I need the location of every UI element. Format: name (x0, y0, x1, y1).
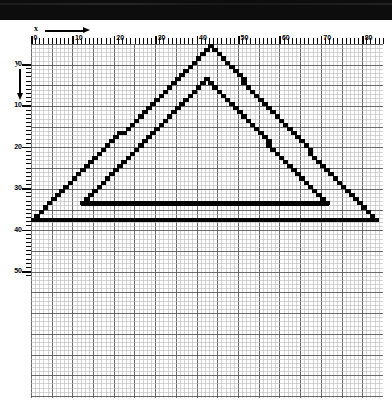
x-tick-label-60: 60 (282, 34, 290, 42)
x-tick-label-80: 80 (365, 34, 373, 42)
x-tick-major-10 (72, 36, 74, 44)
x-axis-ruler: 01020304050607080 (31, 36, 383, 44)
y-tick-major-40 (22, 230, 31, 232)
x-axis-label: x (34, 24, 38, 33)
y-tick-major-30 (22, 188, 31, 190)
x-tick-minor (383, 38, 384, 44)
x-tick-label-50: 50 (241, 34, 249, 42)
x-tick-major-50 (238, 36, 240, 44)
x-arrow-shaft-icon (45, 30, 85, 32)
y-tick-label-50: 50 (14, 267, 22, 275)
x-tick-label-30: 30 (158, 34, 166, 42)
x-tick-major-80 (362, 36, 364, 44)
x-tick-major-40 (197, 36, 199, 44)
x-tick-label-0: 0 (34, 34, 38, 42)
x-tick-major-20 (114, 36, 116, 44)
y-tick-major-50 (22, 271, 31, 273)
y-tick-major-0 (22, 64, 31, 66)
y-tick-label-10: 10 (14, 101, 22, 109)
y-tick-major-10 (22, 105, 31, 107)
y-tick-major-20 (22, 147, 31, 149)
x-tick-label-70: 70 (323, 34, 331, 42)
x-tick-major-60 (279, 36, 281, 44)
plot-svg (31, 44, 383, 398)
x-tick-label-40: 40 (199, 34, 207, 42)
y-axis-ruler: 01020304050 (22, 44, 31, 404)
y-arrow-shaft-icon (19, 69, 21, 95)
x-tick-major-0 (31, 36, 33, 44)
y-tick-label-40: 40 (14, 226, 22, 234)
x-tick-label-20: 20 (116, 34, 124, 42)
y-tick-label-0: 0 (18, 60, 22, 68)
y-tick-label-20: 20 (14, 143, 22, 151)
y-tick-label-30: 30 (14, 184, 22, 192)
x-arrow-head-icon (83, 27, 90, 33)
x-tick-major-70 (321, 36, 323, 44)
grid-canvas (31, 44, 383, 398)
x-tick-major-30 (155, 36, 157, 44)
header-bar (0, 0, 392, 20)
x-tick-label-10: 10 (75, 34, 83, 42)
x-axis-direction-indicator: x (34, 24, 96, 36)
header-sheen (0, 3, 392, 5)
plot-area: x y 01020304050607080 01020304050 (0, 20, 392, 409)
